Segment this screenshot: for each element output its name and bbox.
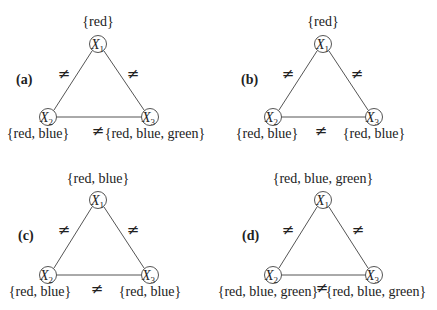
neq-x2-x3: ≠ [315, 122, 328, 140]
panel-label: (c) [18, 228, 34, 244]
panel-label: (a) [16, 72, 33, 88]
domain-x1: {red, blue} [67, 171, 129, 186]
domain-x2: {red, blue, green} [218, 284, 319, 299]
domain-x3: {red, blue} [343, 126, 405, 141]
panel-c: X1 X2 X3 {red, blue} {red, blue} {red, b… [9, 171, 181, 299]
neq-x1-x3: ≠ [352, 221, 365, 239]
neq-x1-x3: ≠ [351, 65, 364, 83]
panel-label: (d) [242, 228, 259, 244]
neq-x1-x3: ≠ [127, 65, 140, 83]
domain-x3: {red, blue, green} [105, 126, 206, 141]
panel-label: (b) [241, 72, 258, 88]
domain-x2: {red, blue} [9, 284, 71, 299]
neq-x1-x2: ≠ [58, 221, 71, 239]
neq-x1-x2: ≠ [58, 65, 71, 83]
domain-x1: {red, blue, green} [273, 171, 374, 186]
neq-x2-x3: ≠ [91, 280, 104, 298]
neq-x2-x3: ≠ [92, 122, 105, 140]
neq-x1-x2: ≠ [282, 221, 295, 239]
panel-a: X1 X2 X3 {red} {red, blue} {red, blue, g… [7, 14, 205, 141]
domain-x1: {red} [82, 14, 113, 29]
panel-b: X1 X2 X3 {red} {red, blue} {red, blue} (… [236, 14, 405, 141]
domain-x2: {red, blue} [236, 126, 298, 141]
domain-x3: {red, blue} [119, 284, 181, 299]
neq-x1-x2: ≠ [282, 65, 295, 83]
neq-x2-x3: ≠ [316, 279, 329, 297]
neq-x1-x3: ≠ [127, 221, 140, 239]
constraint-graphs-diagram: X1 X2 X3 {red} {red, blue} {red, blue, g… [0, 0, 437, 310]
domain-x1: {red} [307, 14, 338, 29]
panel-d: X1 X2 X3 {red, blue, green} {red, blue, … [218, 171, 427, 299]
domain-x3: {red, blue, green} [326, 284, 427, 299]
domain-x2: {red, blue} [7, 126, 69, 141]
